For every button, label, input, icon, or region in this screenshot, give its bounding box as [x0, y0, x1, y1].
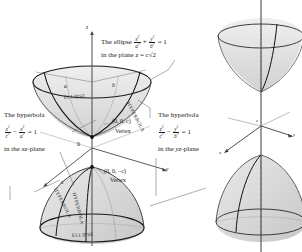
ellipse-note: The ellipse x2 a2 + y2 b2 = 1: [101, 36, 167, 49]
vertex-top-point: (0, 0, c): [112, 118, 131, 124]
hyperbola-xz-plane: in the xz-plane: [4, 146, 45, 154]
figure-root: The ellipse x2 a2 + y2 b2 = 1 in the pla…: [0, 0, 302, 252]
ellipse-note-lead: The ellipse: [101, 38, 132, 46]
ellipse-eq-rhs: = 1: [158, 38, 167, 46]
semi-axis-a-label: a: [64, 83, 67, 89]
leader-lower-right: [150, 188, 206, 206]
vertex-top-word: Vertex: [115, 128, 131, 134]
right-y-axis-label: y: [293, 132, 295, 137]
ellipse-plus-sign: +: [143, 38, 147, 46]
right-x-axis: [225, 126, 261, 152]
hyp-xz-plane-lead: in the: [4, 145, 20, 153]
leader-ellipse-note: [150, 60, 175, 80]
hyp-xz-term-x: x2 a2: [19, 126, 25, 139]
left-y-axis: [92, 148, 166, 170]
right-panel-drawing: [216, 0, 302, 252]
left-z-axis-label: z: [86, 24, 88, 30]
hyp-xz-minus: −: [13, 128, 17, 136]
left-x-axis-label: x: [61, 179, 63, 185]
origin-label: 0: [77, 141, 80, 147]
ellipse-term-y: y2 b2: [149, 36, 155, 49]
hyp-xz-rhs: = 1: [28, 128, 37, 136]
vertex-bottom-dot: [90, 165, 94, 169]
ellipse-term-x: x2 a2: [134, 36, 140, 49]
right-z-axis-label: z: [256, 118, 258, 123]
right-lower-sheet-surface: [216, 155, 302, 242]
hyperbola-xz-lead: The hyperbola: [4, 112, 45, 120]
hyp-yz-term-z: z2 c2: [159, 126, 165, 139]
left-z-axis-arrow: [90, 31, 94, 35]
hyperbola-yz-equation: z2 c2 − y2 b2 = 1: [158, 126, 191, 139]
ellipse-plane-note: in the plane z = c√2: [101, 52, 156, 60]
hyperbola-xz-equation: z2 c2 − x2 a2 = 1: [4, 126, 37, 139]
vertex-bottom-point: (0, 0, −c): [104, 168, 126, 174]
hyp-yz-rhs: = 1: [182, 128, 191, 136]
left-y-axis-label: y: [166, 166, 168, 172]
hyperbola-yz-plane: in the yz-plane: [158, 146, 199, 154]
ellipse-plane-var: z: [135, 51, 138, 59]
right-upper-sheet-surface: [218, 18, 302, 92]
ellipse-plane-eq: = c√2: [140, 51, 156, 59]
hyp-xz-plane-suffix: -plane: [27, 145, 45, 153]
vertex-top-dot: [90, 135, 94, 139]
hyperbola-yz-lead: The hyperbola: [158, 112, 199, 120]
semi-axis-b-label: b: [112, 82, 115, 88]
hyp-yz-term-y: y2 b2: [173, 126, 179, 139]
ellipse-plane-lead: in the plane: [101, 51, 134, 59]
hyp-xz-term-z: z2 c2: [5, 126, 11, 139]
right-y-axis: [261, 126, 292, 136]
right-axis-back-right: [261, 112, 290, 126]
hyp-yz-plane-suffix: -plane: [181, 145, 199, 153]
hyp-yz-minus: −: [167, 128, 171, 136]
vertex-bottom-word: Vertex: [110, 177, 126, 183]
hyp-yz-plane-lead: in the: [158, 145, 174, 153]
right-x-axis-label: x: [219, 150, 221, 155]
